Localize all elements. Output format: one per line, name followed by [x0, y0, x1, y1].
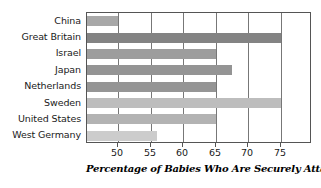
category-label-sweden: Sweden	[44, 97, 81, 108]
bar-united-states	[87, 114, 216, 124]
bar-israel	[87, 49, 216, 59]
category-label-great-britain: Great Britain	[22, 31, 81, 42]
tick-label-60: 60	[170, 147, 194, 158]
tick-label-55: 55	[138, 147, 162, 158]
tick-label-70: 70	[235, 147, 259, 158]
category-label-israel: Israel	[56, 47, 81, 58]
category-label-japan: Japan	[55, 64, 81, 75]
bar-china	[87, 16, 118, 26]
category-label-united-states: United States	[18, 113, 81, 124]
tick-label-65: 65	[203, 147, 227, 158]
bar-netherlands	[87, 82, 216, 92]
tick-label-75: 75	[268, 147, 292, 158]
bar-great-britain	[87, 33, 281, 43]
category-label-netherlands: Netherlands	[24, 80, 81, 91]
bar-japan	[87, 65, 232, 75]
chart-caption: Percentage of Babies Who Are Securely At…	[86, 163, 314, 174]
category-label-china: China	[54, 15, 81, 26]
bar-chart-figure: ChinaGreat BritainIsraelJapanNetherlands…	[0, 0, 321, 188]
bar-series	[87, 13, 310, 142]
plot-area	[86, 12, 311, 143]
tick-label-50: 50	[105, 147, 129, 158]
category-label-west-germany: West Germany	[12, 129, 81, 140]
category-axis-labels: ChinaGreat BritainIsraelJapanNetherlands…	[0, 12, 84, 143]
bar-sweden	[87, 98, 281, 108]
bar-west-germany	[87, 131, 157, 141]
